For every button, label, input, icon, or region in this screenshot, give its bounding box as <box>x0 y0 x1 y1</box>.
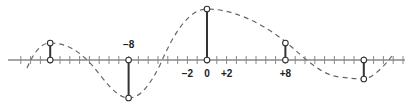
axis-marker <box>47 57 53 63</box>
sample-marker <box>126 95 132 101</box>
tick-label: −8 <box>123 39 135 50</box>
sample-marker <box>204 6 210 12</box>
axis-marker <box>204 57 210 63</box>
tick-label: −2 <box>182 68 194 79</box>
tick-label: 0 <box>204 68 210 79</box>
axis-marker <box>126 57 132 63</box>
sample-marker <box>361 76 367 82</box>
sample-marker <box>283 40 289 46</box>
sample-stems <box>47 6 366 101</box>
tick-label: +2 <box>221 68 233 79</box>
axis-marker <box>283 57 289 63</box>
sample-stem <box>204 6 210 63</box>
sample-marker <box>47 40 53 46</box>
sampled-wave-diagram: −8−20+2+8 <box>0 0 416 110</box>
sample-stem <box>283 40 289 63</box>
sample-stem <box>126 57 132 101</box>
sample-stem <box>361 57 367 82</box>
axis-marker <box>361 57 367 63</box>
tick-label: +8 <box>280 68 292 79</box>
dashed-wave-curve <box>27 9 392 98</box>
sample-stem <box>47 40 53 63</box>
